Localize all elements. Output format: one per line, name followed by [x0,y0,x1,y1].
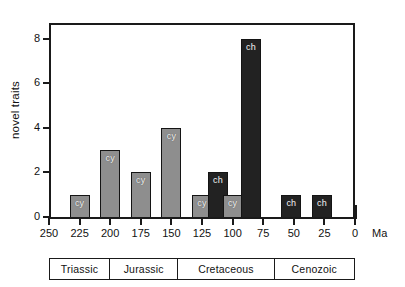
x-tick [201,218,203,225]
bar-ch-85ma: ch [241,39,261,218]
bar-cy-150ma: cy [161,128,181,218]
bar-cy-225ma: cy [70,195,90,218]
bar-value-label: ch [209,175,227,185]
period-segment-cretaceous: Cretaceous [178,259,274,279]
bar-value-label: cy [224,198,242,208]
x-tick [232,218,234,225]
y-tick-label: 0 [34,211,40,222]
bar-value-label: cy [162,131,180,141]
period-segment-cenozoic: Cenozoic [275,259,354,279]
x-tick [109,218,111,225]
bars-layer: cycycycycychcychchch [49,23,355,218]
bar-value-label: ch [242,42,260,52]
y-axis-title: novel traits [9,65,21,155]
x-tick [140,218,142,225]
x-axis-unit-label: Ma [372,227,387,239]
bar-value-label: cy [132,175,150,185]
bar-value-label: ch [282,198,300,208]
period-segment-triassic: Triassic [50,259,110,279]
bar-value-label: cy [71,198,89,208]
x-tick [262,218,264,225]
y-tick-label: 8 [34,33,40,44]
geologic-period-bar: TriassicJurassicCretaceousCenozoic [49,258,355,280]
x-axis-line [49,217,357,219]
period-segment-jurassic: Jurassic [110,259,178,279]
bar-cy-100ma: cy [223,195,243,218]
x-tick [170,218,172,225]
x-tick [79,218,81,225]
x-axis-endcap [355,205,357,219]
x-tick [48,218,50,225]
chart-root: novel traits 02468 cycycycycychcychchch … [0,0,405,287]
x-tick [293,218,295,225]
y-tick-label: 6 [34,77,40,88]
x-tick [354,218,356,225]
bar-ch-27ma: ch [312,195,332,218]
bar-ch-52ma: ch [281,195,301,218]
bar-value-label: cy [101,153,119,163]
bar-cy-175ma: cy [131,172,151,218]
bar-value-label: ch [313,198,331,208]
x-tick-label: 0 [335,227,375,239]
bar-cy-200ma: cy [100,150,120,218]
y-tick-label: 4 [34,122,40,133]
y-tick-label: 2 [34,166,40,177]
x-tick [323,218,325,225]
